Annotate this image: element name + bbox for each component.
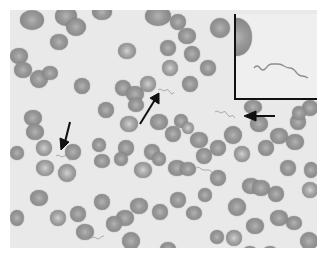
red-blood-cell [140, 76, 156, 92]
red-blood-cell [160, 242, 176, 248]
red-blood-cell [94, 194, 110, 210]
red-blood-cell [30, 190, 48, 206]
micrograph [10, 10, 317, 248]
red-blood-cell [114, 152, 128, 166]
red-blood-cell [280, 160, 296, 176]
red-blood-cell [210, 140, 226, 156]
red-blood-cell [165, 126, 181, 142]
red-blood-cell [76, 224, 94, 240]
red-blood-cell [92, 10, 112, 20]
red-blood-cell [198, 188, 212, 202]
red-blood-cell [190, 132, 208, 148]
red-blood-cell [234, 146, 250, 162]
red-blood-cell [130, 198, 148, 214]
red-blood-cell [50, 34, 68, 50]
red-blood-cell [286, 134, 304, 150]
red-blood-cell [26, 124, 44, 140]
red-blood-cell [178, 28, 196, 44]
red-blood-cell [186, 206, 202, 220]
red-blood-cell [70, 206, 86, 222]
red-blood-cell [42, 66, 58, 80]
red-blood-cell [66, 18, 86, 36]
red-blood-cell [65, 144, 81, 160]
red-blood-cell [152, 204, 168, 220]
red-blood-cell [150, 114, 168, 130]
red-blood-cell [210, 230, 224, 244]
red-blood-cell [36, 160, 54, 176]
red-blood-cell [304, 162, 317, 178]
red-blood-cell [286, 216, 302, 230]
red-blood-cell [58, 164, 76, 182]
red-blood-cell [120, 116, 138, 132]
red-blood-cell [226, 230, 242, 246]
red-blood-cell [36, 140, 52, 156]
red-blood-cell [170, 192, 186, 208]
red-blood-cell [134, 162, 152, 178]
red-blood-cell [106, 216, 122, 232]
red-blood-cell [160, 40, 176, 56]
red-blood-cell [98, 102, 114, 118]
red-blood-cell [92, 138, 106, 152]
red-blood-cell [302, 182, 317, 198]
red-blood-cell [145, 10, 171, 26]
magnified-inset [234, 14, 317, 100]
red-blood-cell [128, 98, 144, 112]
red-blood-cell [246, 218, 264, 234]
red-blood-cell [268, 186, 284, 202]
red-blood-cell [122, 232, 140, 248]
red-blood-cell [50, 210, 66, 226]
red-blood-cell [184, 46, 200, 62]
red-blood-cell [10, 210, 24, 226]
red-blood-cell [14, 62, 32, 78]
red-blood-cell [20, 10, 44, 30]
red-blood-cell [200, 60, 216, 76]
red-blood-cell [250, 116, 268, 132]
red-blood-cell [262, 246, 278, 248]
red-blood-cell [74, 78, 90, 94]
red-blood-cell [162, 60, 178, 76]
red-blood-cell [182, 122, 194, 134]
red-blood-cell [292, 106, 306, 120]
red-blood-cell [228, 198, 246, 216]
red-blood-cell [300, 232, 317, 248]
red-blood-cell [210, 170, 226, 186]
red-blood-cell [242, 246, 258, 248]
red-blood-cell [244, 100, 262, 114]
red-blood-cell [182, 76, 198, 92]
red-blood-cell [94, 154, 110, 168]
red-blood-cell [118, 43, 136, 59]
red-blood-cell [10, 146, 24, 160]
red-blood-cell [210, 18, 230, 38]
red-blood-cell [258, 140, 274, 156]
red-blood-cell [180, 162, 196, 176]
red-blood-cell [224, 126, 242, 144]
red-blood-cell [152, 152, 166, 166]
